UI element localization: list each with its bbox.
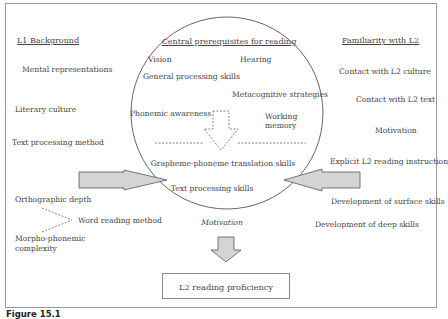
l1-item-literary-culture: Literary culture [15,106,76,114]
l2-item-explicit-instruction: Explicit L2 reading instruction [330,158,448,166]
output-box: L2 reading proficiency [162,273,290,299]
l1-background-heading: L1 Background [17,37,79,45]
l1-item-text-processing-method: Text processing method [12,139,104,147]
dashed-connector-bottom [42,220,72,232]
figure-caption: Figure 15.1 [6,309,61,319]
right-input-arrow-icon [284,169,360,191]
l2-item-deep-skills: Development of deep skills [315,221,419,229]
center-item-text-processing-skills: Text processing skills [171,185,254,193]
center-item-working-memory-line1: Working [265,113,297,121]
center-item-phonemic-awareness: Phonemic awareness [130,110,211,118]
left-input-arrow-icon [79,170,167,190]
l1-item-mental-representations: Mental representations [22,66,112,74]
center-item-general-processing: General processing skills [143,73,240,81]
l2-item-surface-skills: Development of surface skills [331,198,445,206]
output-down-arrow-icon [211,237,241,262]
center-item-vision: Vision [148,56,172,64]
center-item-metacognitive: Metacognitive strategies [232,91,328,99]
l2-item-contact-text: Contact with L2 text [356,96,435,104]
center-item-hearing: Hearing [240,56,271,64]
orthographic-depth-label: Orthographic depth [15,196,91,204]
word-reading-method-label: Word reading method [78,217,162,225]
output-box-label: L2 reading proficiency [163,282,289,292]
morpho-phonemic-label-line1: Morpho-phonemic [15,235,85,243]
familiarity-l2-heading: Familiarity with L2 [342,37,419,45]
dashed-connector-top [42,208,72,220]
l2-item-contact-culture: Contact with L2 culture [339,68,431,76]
morpho-phonemic-label-line2: complexity [15,245,57,253]
central-prerequisites-heading: Central prerequisites for reading [162,38,297,46]
center-item-grapheme-phoneme: Grapheme-phoneme translation skills [151,160,296,168]
l2-item-motivation: Motivation [375,127,417,135]
center-item-working-memory-line2: memory [265,122,296,130]
center-motivation-label: Motivation [201,219,243,227]
